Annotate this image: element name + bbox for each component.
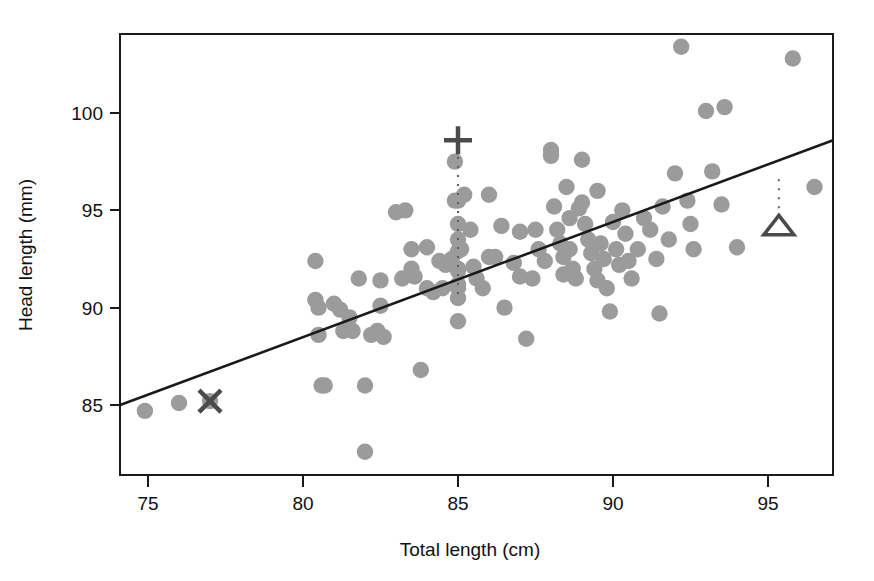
data-point [713,196,729,212]
x-tick-label: 75 [137,493,158,514]
y-axis-title: Head length (mm) [15,179,36,331]
data-point [623,270,639,286]
y-tick-group: 85 [82,395,120,416]
y-tick-group: 100 [71,103,120,124]
data-point [453,241,469,257]
data-point [574,152,590,168]
data-point [493,218,509,234]
data-point [673,39,689,55]
data-point [137,403,153,419]
data-point [317,377,333,393]
y-tick-group: 90 [82,298,120,319]
data-point [344,323,360,339]
data-point [543,148,559,164]
x-tick-group: 95 [757,475,778,514]
triangle-marker [764,179,794,235]
regression-line-layer [120,140,833,405]
y-tick-label: 100 [71,103,103,124]
data-point [419,239,435,255]
data-point [667,165,683,181]
x-tick-group: 75 [137,475,158,514]
data-point [518,331,534,347]
data-point [450,313,466,329]
y-axis: 100 95 90 85 Head length (mm) [15,103,120,416]
data-points-layer [137,39,823,460]
triangle-up-icon [764,215,794,234]
data-point [651,305,667,321]
data-point [661,231,677,247]
x-axis-title: Total length (cm) [400,539,540,560]
data-point [785,50,801,66]
data-point [682,216,698,232]
data-point [397,202,413,218]
data-point [561,241,577,257]
y-tick-label: 90 [82,298,103,319]
data-point [357,377,373,393]
data-point [549,222,565,238]
x-tick-label: 85 [447,493,468,514]
data-point [685,241,701,257]
data-point [462,222,478,238]
data-point [648,251,664,267]
data-point [608,241,624,257]
data-point [481,249,497,265]
data-point [546,198,562,214]
data-point [716,99,732,115]
data-point [372,272,388,288]
data-point [475,280,491,296]
data-point [589,183,605,199]
data-point [537,253,553,269]
data-point [592,235,608,251]
data-point [481,187,497,203]
data-point [310,299,326,315]
data-point [602,303,618,319]
scatter-plot-figure: 100 95 90 85 Head length (mm) 75 [0,0,874,581]
data-point [630,241,646,257]
x-tick-group: 80 [292,475,313,514]
x-tick-label: 95 [757,493,778,514]
data-point [729,239,745,255]
data-point [512,268,528,284]
data-point [642,222,658,238]
data-point [599,280,615,296]
x-tick-label: 90 [602,493,623,514]
data-point [447,153,463,169]
data-point [307,253,323,269]
data-point [704,163,720,179]
x-tick-group: 85 [447,475,468,514]
data-point [413,362,429,378]
data-point [512,224,528,240]
data-point [568,270,584,286]
data-point [403,241,419,257]
data-point [806,179,822,195]
data-point [351,270,367,286]
data-point [496,299,512,315]
data-point [558,179,574,195]
y-tick-label: 95 [82,200,103,221]
data-point [375,329,391,345]
data-point [574,194,590,210]
x-axis: 75 80 85 90 95 Total length (cm) [137,475,778,560]
data-point [406,268,422,284]
data-point [527,222,543,238]
x-tick-label: 80 [292,493,313,514]
plot-canvas: 100 95 90 85 Head length (mm) 75 [0,0,874,581]
data-point [171,395,187,411]
y-tick-label: 85 [82,395,103,416]
y-tick-group: 95 [82,200,120,221]
regression-line [120,140,833,405]
data-point [357,444,373,460]
data-point [617,225,633,241]
data-point [698,103,714,119]
x-tick-group: 90 [602,475,623,514]
